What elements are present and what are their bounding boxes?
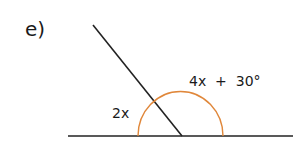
diagonal-line	[93, 25, 182, 136]
angle-diagram: e) 2x 4x + 30°	[0, 0, 305, 153]
angle-right-label: 4x + 30°	[189, 73, 261, 89]
angle-left-label: 2x	[112, 105, 129, 121]
problem-label: e)	[25, 17, 45, 41]
